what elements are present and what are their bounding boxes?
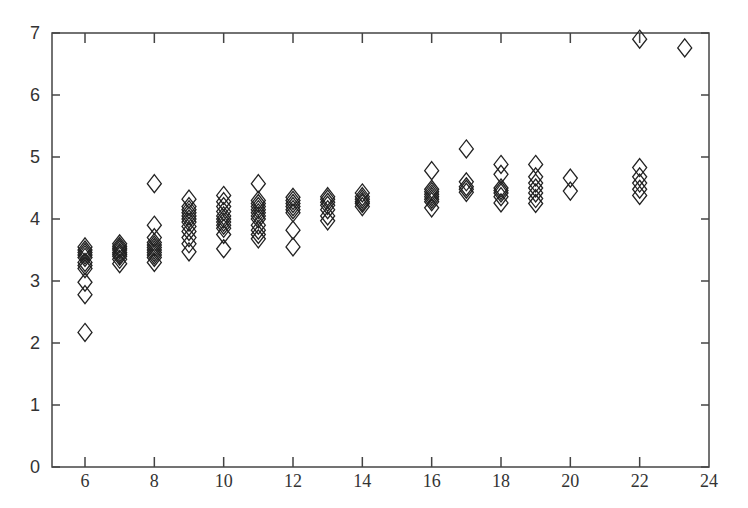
x-tick-label: 10	[215, 471, 233, 491]
x-tick-label: 22	[631, 471, 649, 491]
y-tick-label: 6	[30, 85, 40, 105]
x-tick-label: 14	[353, 471, 371, 491]
x-tick-label: 8	[150, 471, 159, 491]
diamond-marker	[633, 180, 647, 198]
diamond-marker	[459, 173, 473, 191]
y-tick-label: 4	[30, 209, 40, 229]
y-tick-label: 0	[30, 457, 40, 477]
diamond-marker	[563, 169, 577, 187]
diamond-marker	[678, 39, 692, 57]
diamond-marker	[321, 207, 335, 225]
scatter-chart: 01234567 681012141618202224	[0, 0, 748, 508]
y-tick-label: 5	[30, 147, 40, 167]
x-tick-label: 20	[561, 471, 579, 491]
diamond-marker	[286, 221, 300, 239]
diamond-marker	[529, 155, 543, 173]
diamond-marker	[78, 273, 92, 291]
y-tick-label: 7	[30, 23, 40, 43]
diamond-marker	[633, 186, 647, 204]
diamond-marker	[459, 140, 473, 158]
y-tick-label: 2	[30, 333, 40, 353]
diamond-marker	[147, 216, 161, 234]
x-axis: 681012141618202224	[81, 33, 719, 491]
diamond-marker	[147, 175, 161, 193]
y-tick-label: 1	[30, 395, 40, 415]
data-points	[78, 30, 692, 341]
x-tick-label: 16	[423, 471, 441, 491]
diamond-marker	[425, 162, 439, 180]
diamond-marker	[563, 182, 577, 200]
x-tick-label: 6	[81, 471, 90, 491]
x-tick-label: 12	[284, 471, 302, 491]
diamond-marker	[286, 238, 300, 256]
x-tick-label: 18	[492, 471, 510, 491]
diamond-marker	[251, 175, 265, 193]
y-axis: 01234567	[30, 23, 709, 477]
diamond-marker	[78, 323, 92, 341]
x-tick-label: 24	[700, 471, 718, 491]
diamond-marker	[78, 286, 92, 304]
y-tick-label: 3	[30, 271, 40, 291]
diamond-marker	[182, 190, 196, 208]
